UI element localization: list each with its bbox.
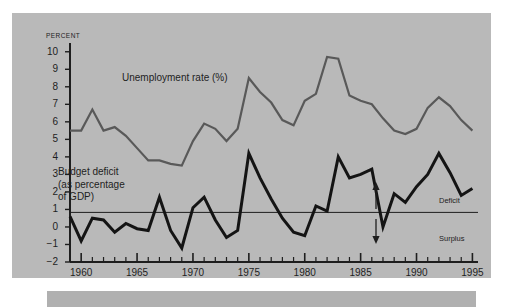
series-label-budget-deficit: Budget deficit (as percentage of GDP) bbox=[58, 166, 148, 204]
series-label-unemployment: Unemployment rate (%) bbox=[122, 73, 228, 83]
y-tick-label-0: 0 bbox=[42, 222, 58, 232]
caption-bar bbox=[47, 291, 476, 307]
y-tick-label-8: 8 bbox=[42, 82, 58, 92]
y-tick-label-10: 10 bbox=[42, 47, 58, 57]
chart-plot-area bbox=[12, 13, 491, 278]
x-tick-label-1995: 1995 bbox=[452, 268, 492, 278]
x-tick-label-1965: 1965 bbox=[117, 268, 157, 278]
y-tick-label-7: 7 bbox=[42, 99, 58, 109]
y-tick-label-4: 4 bbox=[42, 152, 58, 162]
x-tick-label-1980: 1980 bbox=[285, 268, 325, 278]
surplus-arrow-head bbox=[372, 236, 379, 244]
y-tick-label-3: 3 bbox=[42, 169, 58, 179]
x-tick-label-1985: 1985 bbox=[341, 268, 381, 278]
y-tick-label-−1: −1 bbox=[42, 239, 58, 249]
annotation-label-deficit: Deficit bbox=[439, 197, 460, 205]
y-tick-label-1: 1 bbox=[42, 204, 58, 214]
deficit-label-line-3: of GDP) bbox=[58, 191, 148, 204]
annotation-label-surplus: Surplus bbox=[439, 235, 464, 243]
y-tick-label-9: 9 bbox=[42, 64, 58, 74]
deficit-label-line-1: Budget deficit bbox=[58, 166, 148, 179]
chart-figure-panel: PERCENT 109876543210−1−2 196019651970197… bbox=[12, 13, 491, 278]
x-tick-label-1970: 1970 bbox=[173, 268, 213, 278]
y-tick-label-−2: −2 bbox=[42, 257, 58, 267]
x-tick-label-1990: 1990 bbox=[397, 268, 437, 278]
direction-annotation-arrows bbox=[372, 182, 379, 244]
deficit-label-line-2: (as percentage bbox=[58, 179, 148, 192]
x-tick-label-1960: 1960 bbox=[61, 268, 101, 278]
x-tick-label-1975: 1975 bbox=[229, 268, 269, 278]
y-tick-label-6: 6 bbox=[42, 117, 58, 127]
y-axis-unit-label: PERCENT bbox=[46, 33, 80, 40]
y-tick-label-5: 5 bbox=[42, 134, 58, 144]
y-tick-label-2: 2 bbox=[42, 187, 58, 197]
x-axis-major-tick-marks bbox=[81, 253, 472, 262]
